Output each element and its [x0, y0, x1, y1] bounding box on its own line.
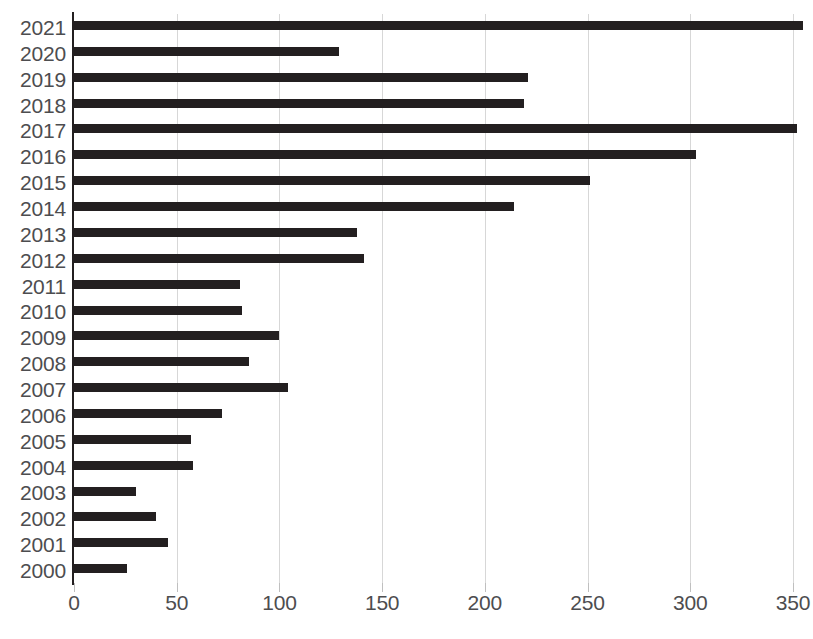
x-axis-tick-label: 0	[68, 592, 79, 613]
y-axis-tick-label: 2015	[2, 172, 66, 193]
bar	[74, 357, 249, 366]
plot-area	[74, 14, 793, 583]
bar-row	[74, 428, 793, 454]
bar-row	[74, 40, 793, 66]
bar-row	[74, 505, 793, 531]
x-axis-tick-label: 100	[262, 592, 296, 613]
y-axis-tick-label: 2000	[2, 560, 66, 581]
y-axis-tick-label: 2009	[2, 327, 66, 348]
bar-row	[74, 324, 793, 350]
bar-row	[74, 480, 793, 506]
bar-row	[74, 531, 793, 557]
bar	[74, 254, 364, 263]
bar	[74, 176, 590, 185]
x-axis-tick-label: 200	[468, 592, 502, 613]
bar	[74, 331, 279, 340]
bar-row	[74, 92, 793, 118]
bar	[74, 47, 339, 56]
bar-row	[74, 247, 793, 273]
bar	[74, 228, 357, 237]
bar-chart: 2021202020192018201720162015201420132012…	[0, 0, 813, 639]
y-axis-tick-label: 2003	[2, 482, 66, 503]
bar	[74, 512, 156, 521]
x-gridline	[793, 14, 794, 588]
bar	[74, 202, 514, 211]
bar	[74, 538, 168, 547]
y-axis-tick-label: 2006	[2, 405, 66, 426]
x-axis-tick-label: 300	[673, 592, 707, 613]
bar-row	[74, 402, 793, 428]
bar	[74, 409, 222, 418]
y-axis-tick-label: 2013	[2, 224, 66, 245]
y-axis-tick-label: 2012	[2, 250, 66, 271]
bar	[74, 73, 528, 82]
y-axis-tick-label: 2020	[2, 43, 66, 64]
x-axis-tick-label: 350	[776, 592, 810, 613]
bar-row	[74, 14, 793, 40]
bar-row	[74, 169, 793, 195]
y-axis-tick-label: 2001	[2, 534, 66, 555]
bar	[74, 435, 191, 444]
bar-row	[74, 117, 793, 143]
bar	[74, 306, 242, 315]
y-axis-tick-label: 2014	[2, 198, 66, 219]
x-axis-tick-label: 50	[165, 592, 188, 613]
bar	[74, 124, 797, 133]
y-axis-tick-label: 2007	[2, 379, 66, 400]
bar-row	[74, 66, 793, 92]
y-axis-tick-label: 2005	[2, 431, 66, 452]
bar	[74, 487, 136, 496]
bar-row	[74, 143, 793, 169]
y-axis-tick-label: 2016	[2, 146, 66, 167]
y-axis-tick-label: 2017	[2, 120, 66, 141]
y-axis-category-labels: 2021202020192018201720162015201420132012…	[0, 0, 66, 639]
bar-row	[74, 350, 793, 376]
bar	[74, 564, 127, 573]
bar	[74, 280, 240, 289]
x-axis-tick-label: 150	[365, 592, 399, 613]
bar-row	[74, 221, 793, 247]
y-axis-tick-label: 2019	[2, 69, 66, 90]
bar	[74, 150, 696, 159]
bar-row	[74, 299, 793, 325]
bar	[74, 21, 803, 30]
y-axis-tick-label: 2010	[2, 301, 66, 322]
bar-row	[74, 195, 793, 221]
bar-row	[74, 273, 793, 299]
y-axis-tick-label: 2004	[2, 457, 66, 478]
bar	[74, 383, 288, 392]
y-axis-tick-label: 2018	[2, 95, 66, 116]
bar	[74, 99, 524, 108]
y-axis-tick-label: 2011	[2, 276, 66, 297]
bar-row	[74, 454, 793, 480]
y-axis-tick-label: 2021	[2, 17, 66, 38]
x-axis-tick-label: 250	[570, 592, 604, 613]
bar	[74, 461, 193, 470]
bar-row	[74, 376, 793, 402]
y-axis-tick-label: 2008	[2, 353, 66, 374]
bar-row	[74, 557, 793, 583]
y-axis-tick-label: 2002	[2, 508, 66, 529]
